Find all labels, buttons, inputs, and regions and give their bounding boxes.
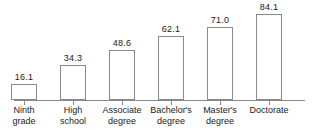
bar-value-label: 84.1 — [245, 2, 293, 12]
x-axis-category-label: Doctorate — [240, 105, 298, 116]
bar-chart: 16.1 34.3 48.6 62.1 71.0 84.1 — [0, 0, 316, 135]
bar-rect[interactable] — [11, 84, 37, 100]
bar-rect[interactable] — [60, 65, 86, 100]
bar-value-label: 62.1 — [147, 24, 195, 34]
bar-value-label: 34.3 — [49, 53, 97, 63]
bar-value-label: 48.6 — [98, 38, 146, 48]
plot-area: 16.1 34.3 48.6 62.1 71.0 84.1 — [0, 0, 316, 135]
bar-value-label: 71.0 — [196, 15, 244, 25]
x-axis-line — [14, 100, 305, 101]
bar-rect[interactable] — [256, 14, 282, 100]
category-label-line: Doctorate — [240, 105, 298, 116]
bar-value-label: 16.1 — [0, 72, 48, 82]
bar-rect[interactable] — [109, 50, 135, 100]
bar-rect[interactable] — [158, 36, 184, 100]
bar-rect[interactable] — [207, 27, 233, 100]
category-label-line: degree — [191, 116, 249, 127]
